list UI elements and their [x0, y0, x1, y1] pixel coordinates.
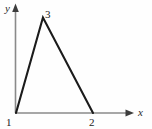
y-axis-label: y — [4, 2, 10, 14]
x-tick-label-2: 2 — [89, 116, 95, 128]
peak-value-label: 3 — [45, 8, 51, 20]
y-axis-arrow-icon — [12, 4, 19, 13]
x-tick-label-1: 1 — [6, 116, 12, 128]
x-axis-label: x — [137, 106, 143, 118]
x-axis-arrow-icon — [126, 110, 135, 117]
triangle-curve — [16, 18, 93, 114]
triangle-graph-svg: y x 3 1 2 — [0, 0, 152, 129]
figure-container: y x 3 1 2 — [0, 0, 152, 129]
